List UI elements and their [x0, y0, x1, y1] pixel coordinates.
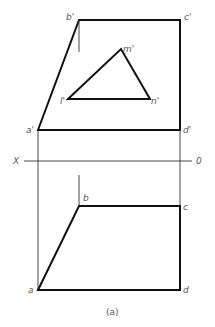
label-d: d: [183, 285, 189, 295]
front-view-quadrilateral: [38, 20, 180, 130]
axis-label-x: X: [12, 156, 20, 166]
label-a: a: [28, 285, 34, 295]
label-n-prime: n': [151, 96, 159, 106]
label-m-prime: m': [123, 44, 134, 54]
label-l-prime: l': [60, 96, 65, 106]
top-view-quadrilateral: [38, 206, 180, 290]
label-c-prime: c': [184, 12, 191, 22]
front-view-triangle-lmn: [68, 49, 150, 99]
label-b: b: [83, 193, 89, 203]
projection-diagram: X 0 b' c' a' d' m' l' n' b c a d (a): [0, 0, 215, 327]
label-a-prime: a': [26, 125, 34, 135]
figure-caption: (a): [106, 307, 119, 317]
label-d-prime: d': [183, 125, 191, 135]
label-b-prime: b': [66, 12, 74, 22]
label-c: c: [183, 202, 188, 212]
axis-label-0: 0: [196, 156, 202, 166]
